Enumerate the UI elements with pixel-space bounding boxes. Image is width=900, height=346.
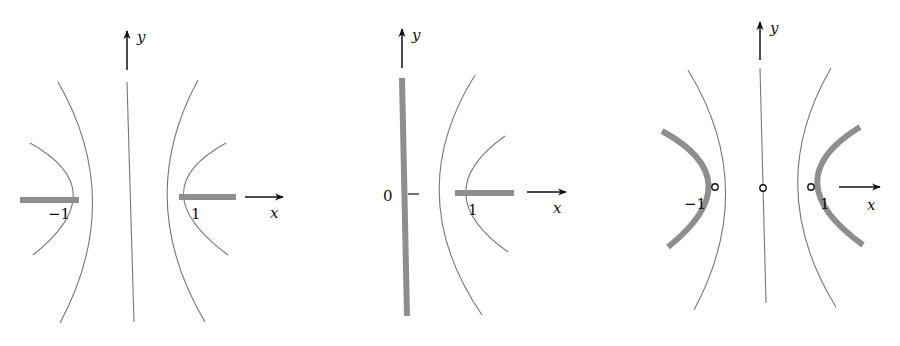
- x-axis-label: x: [553, 199, 562, 217]
- tick-label-neg-one: −1: [684, 195, 706, 213]
- panel-left: y −1 1 x: [20, 28, 283, 323]
- point-origin-icon: [760, 185, 766, 191]
- tick-label-zero: 0: [383, 187, 393, 205]
- segment-vertical: [402, 78, 407, 316]
- x-axis-label: x: [867, 196, 876, 214]
- point-one-icon: [808, 184, 814, 190]
- hyperbola-inner-right: [167, 80, 205, 322]
- point-neg-one-icon: [712, 184, 718, 190]
- tick-label-neg-one: −1: [48, 205, 70, 223]
- panel-right: y −1 1 x: [662, 19, 880, 310]
- y-axis-label: y: [411, 26, 421, 44]
- y-axis-label: y: [136, 28, 146, 46]
- tick-label-one: 1: [468, 201, 478, 219]
- hyperbola-thick-left: [662, 131, 709, 247]
- hyperbola-thick-right: [817, 127, 863, 245]
- panel-middle: y 0 1 x: [383, 26, 566, 316]
- x-axis-label: x: [270, 204, 279, 222]
- hyperbola-figure: y −1 1 x y 0 1 x y: [0, 0, 900, 346]
- tick-label-one: 1: [191, 205, 201, 223]
- center-line: [127, 82, 134, 322]
- tick-label-one: 1: [820, 195, 830, 213]
- y-axis-label: y: [769, 19, 779, 37]
